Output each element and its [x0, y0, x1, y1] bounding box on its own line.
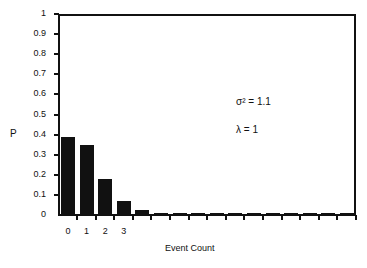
bar [173, 213, 187, 215]
y-tick-label: 0 [16, 209, 46, 219]
bar [61, 137, 75, 215]
y-tick-label: 0.1 [16, 189, 46, 199]
y-tick-label: 0.3 [16, 149, 46, 159]
x-tick-mark [113, 215, 115, 220]
bar [228, 213, 242, 215]
x-tick-mark [150, 215, 152, 220]
bar [303, 213, 317, 215]
y-tick-label: 0.5 [16, 109, 46, 119]
y-tick-label: 0.2 [16, 169, 46, 179]
x-tick-mark [336, 215, 338, 220]
y-tick-label: 0.7 [16, 68, 46, 78]
bar [80, 145, 94, 215]
x-tick-mark [225, 215, 227, 220]
bar [98, 179, 112, 215]
bar [284, 213, 298, 215]
y-tick-mark [54, 134, 59, 136]
bar [154, 213, 168, 215]
x-tick-mark [281, 215, 283, 220]
x-tick-mark [355, 215, 357, 220]
y-tick-mark [54, 33, 59, 35]
y-tick-mark [54, 13, 59, 15]
bar [135, 210, 149, 215]
x-tick-label: 1 [81, 226, 93, 236]
y-tick-mark [54, 154, 59, 156]
y-tick-label: 1 [16, 8, 46, 18]
y-tick-mark [54, 114, 59, 116]
x-tick-mark [132, 215, 134, 220]
bar [266, 213, 280, 215]
x-tick-mark [76, 215, 78, 220]
x-axis-label: Event Count [165, 243, 215, 253]
variance-annotation: σ² = 1.1 [236, 96, 271, 107]
x-tick-mark [169, 215, 171, 220]
x-tick-mark [243, 215, 245, 220]
bar [247, 213, 261, 215]
lambda-annotation: λ = 1 [236, 124, 258, 135]
x-tick-mark [262, 215, 264, 220]
x-tick-mark [318, 215, 320, 220]
y-tick-label: 0.6 [16, 88, 46, 98]
y-tick-mark [54, 93, 59, 95]
y-tick-label: 0.4 [16, 129, 46, 139]
bar [321, 213, 335, 215]
y-tick-label: 0.9 [16, 28, 46, 38]
x-tick-label: 2 [99, 226, 111, 236]
y-tick-mark [54, 174, 59, 176]
y-tick-mark [54, 53, 59, 55]
x-tick-mark [188, 215, 190, 220]
bar [210, 213, 224, 215]
bar [117, 201, 131, 215]
y-tick-mark [54, 194, 59, 196]
x-tick-mark [299, 215, 301, 220]
bar [340, 213, 354, 215]
y-tick-label: 0.8 [16, 48, 46, 58]
y-tick-mark [54, 73, 59, 75]
x-tick-mark [206, 215, 208, 220]
x-tick-label: 0 [62, 226, 74, 236]
x-tick-label: 3 [118, 226, 130, 236]
bar [191, 213, 205, 215]
x-tick-mark [95, 215, 97, 220]
